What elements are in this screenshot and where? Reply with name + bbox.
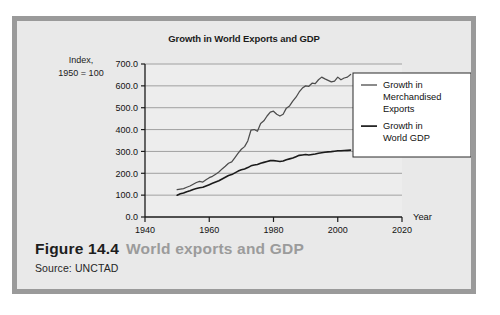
y-axis-tick-label: 0.0: [125, 212, 138, 222]
figure-number: Figure 14.4: [35, 240, 119, 257]
x-axis-tick-label: 2020: [392, 225, 412, 233]
y-axis-tick-label: 700.0: [115, 59, 138, 69]
y-axis-tick-label: 200.0: [115, 169, 138, 179]
plot-svg: 0.0100.0200.0300.0400.0500.0600.0700.019…: [17, 21, 471, 233]
legend-label: Growth in: [383, 80, 423, 90]
legend-label: Exports: [383, 104, 415, 114]
chart-region: Growth in World Exports and GDP Index, 1…: [17, 21, 471, 233]
figure-frame: Growth in World Exports and GDP Index, 1…: [12, 16, 476, 294]
legend-label: Growth in: [383, 121, 423, 131]
x-axis-name: Year: [413, 211, 432, 222]
x-axis-tick-label: 1940: [135, 225, 155, 233]
y-axis-tick-label: 400.0: [115, 125, 138, 135]
figure-title: World exports and GDP: [126, 240, 304, 257]
caption-heading: Figure 14.4World exports and GDP: [35, 239, 455, 259]
y-axis-tick-label: 500.0: [115, 103, 138, 113]
x-axis-tick-label: 1960: [199, 225, 219, 233]
x-axis-tick-label: 2000: [328, 225, 348, 233]
legend-label: Merchandised: [383, 92, 441, 102]
figure-source: Source: UNCTAD: [35, 262, 455, 274]
y-axis-tick-label: 600.0: [115, 81, 138, 91]
x-axis-tick-label: 1980: [263, 225, 283, 233]
y-axis-tick-label: 100.0: [115, 190, 138, 200]
y-axis-tick-label: 300.0: [115, 147, 138, 157]
figure-caption: Figure 14.4World exports and GDP Source:…: [35, 239, 455, 274]
legend-label: World GDP: [383, 133, 430, 143]
